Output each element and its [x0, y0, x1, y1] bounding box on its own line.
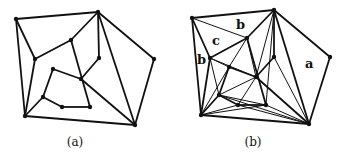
edge	[135, 59, 154, 125]
edge	[192, 10, 274, 18]
vertex	[264, 103, 268, 107]
edge	[98, 12, 99, 58]
caption-a: (a)	[67, 135, 84, 149]
triangulation-diagram: (a) (b) bcba	[0, 0, 345, 153]
vertex	[307, 122, 311, 126]
vertex	[69, 38, 73, 42]
region-label: c	[212, 33, 220, 48]
vertex	[133, 123, 137, 127]
edge	[247, 38, 266, 105]
region-labels: bcba	[197, 17, 314, 71]
vertex	[79, 77, 83, 81]
vertex	[245, 36, 249, 40]
caption-b: (b)	[244, 135, 261, 149]
edge	[16, 12, 98, 19]
vertex	[208, 56, 212, 60]
vertex	[272, 8, 276, 12]
edge	[71, 40, 90, 107]
edge	[71, 12, 98, 40]
vertex	[254, 75, 258, 79]
edge	[229, 67, 256, 77]
vertex	[23, 114, 27, 118]
vertex	[190, 16, 194, 20]
vertex	[328, 55, 332, 59]
vertex	[41, 95, 45, 99]
vertex	[272, 55, 276, 59]
vertex	[152, 57, 156, 61]
edge	[274, 10, 330, 57]
edge	[43, 69, 53, 97]
edge	[25, 116, 135, 125]
triangulation-edge	[210, 58, 219, 95]
figure-a-polygon-graph	[14, 10, 156, 127]
region-label: b	[197, 52, 206, 67]
vertex	[236, 103, 240, 107]
region-label: b	[236, 17, 245, 32]
vertex	[88, 105, 92, 109]
vertex	[33, 57, 37, 61]
vertex	[97, 56, 101, 60]
vertex	[217, 93, 221, 97]
vertex	[14, 17, 18, 21]
edge	[81, 58, 99, 79]
vertex	[51, 67, 55, 71]
region-label: a	[305, 56, 314, 71]
edge	[98, 12, 135, 125]
edge	[35, 40, 71, 59]
edge	[43, 97, 62, 107]
vertex	[96, 10, 100, 14]
triangulation-edge	[219, 95, 266, 105]
vertex	[227, 65, 231, 69]
edge	[53, 69, 81, 79]
vertex	[60, 105, 64, 109]
vertex	[199, 113, 203, 117]
